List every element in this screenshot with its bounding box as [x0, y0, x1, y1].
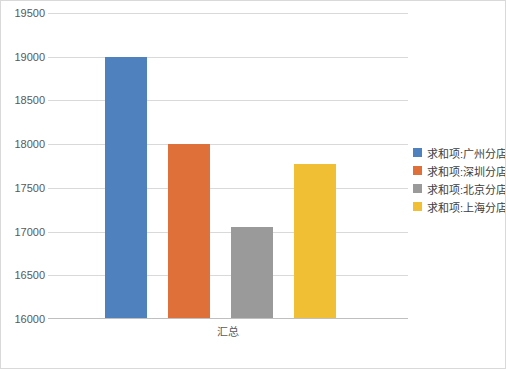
legend-item-shenzhen[interactable]: 求和项:深圳分店	[413, 162, 503, 179]
legend-swatch-icon	[413, 184, 422, 193]
x-axis-category-label: 汇总	[48, 323, 408, 339]
bar-beijing[interactable]	[231, 227, 273, 319]
legend-label: 求和项:上海分店	[427, 199, 506, 215]
legend-label: 求和项:深圳分店	[427, 163, 506, 179]
legend-item-beijing[interactable]: 求和项:北京分店	[413, 180, 503, 197]
legend-swatch-icon	[413, 166, 422, 175]
y-axis-tick-label: 19000	[3, 51, 45, 63]
y-axis-tick-label: 17000	[3, 226, 45, 238]
legend-swatch-icon	[413, 148, 422, 157]
y-axis-tick-label: 16000	[3, 313, 45, 325]
y-axis: 16000 16500 17000 17500 18000 18500 1900…	[1, 13, 45, 319]
y-axis-tick-label: 18000	[3, 138, 45, 150]
y-axis-tick-label: 16500	[3, 269, 45, 281]
bar-shenzhen[interactable]	[168, 144, 210, 318]
legend-swatch-icon	[413, 202, 422, 211]
y-axis-tick-label: 17500	[3, 182, 45, 194]
legend-item-guangzhou[interactable]: 求和项:广州分店	[413, 144, 503, 161]
x-axis-line	[48, 318, 408, 319]
y-axis-tick-label: 18500	[3, 94, 45, 106]
chart-container: 16000 16500 17000 17500 18000 18500 1900…	[0, 0, 506, 369]
bar-shanghai[interactable]	[294, 164, 336, 318]
bar-guangzhou[interactable]	[105, 57, 147, 318]
y-axis-tick-label: 19500	[3, 7, 45, 19]
legend-label: 求和项:广州分店	[427, 145, 506, 161]
legend-label: 求和项:北京分店	[427, 181, 506, 197]
legend: 求和项:广州分店 求和项:深圳分店 求和项:北京分店 求和项:上海分店	[413, 144, 503, 216]
bar-group	[48, 13, 408, 318]
plot-area	[48, 13, 408, 319]
legend-item-shanghai[interactable]: 求和项:上海分店	[413, 198, 503, 215]
